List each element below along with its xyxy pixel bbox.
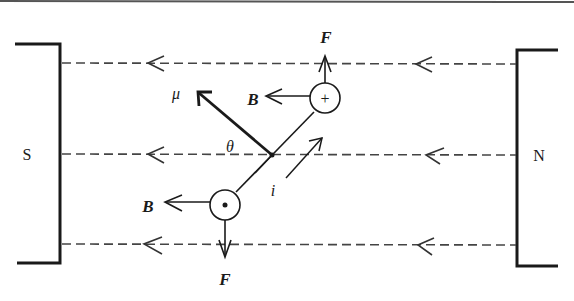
arrow-left-icon xyxy=(418,238,434,255)
force-label-top: F xyxy=(319,28,332,47)
top-border xyxy=(0,1,574,2)
conductor-plus: + xyxy=(310,83,340,113)
coil-side-view xyxy=(236,112,314,192)
north-pole-label: N xyxy=(533,147,545,164)
moment-label: μ xyxy=(171,85,180,103)
field-line-top xyxy=(62,63,516,64)
plus-symbol: + xyxy=(320,90,329,107)
force-arrow-down xyxy=(219,220,231,257)
arrow-left-icon xyxy=(144,237,162,254)
conductor-dot xyxy=(210,190,240,220)
field-arrow-bottom xyxy=(165,195,210,211)
south-pole-label: S xyxy=(23,146,32,163)
angle-label: θ xyxy=(226,138,234,155)
field-arrow-top xyxy=(266,89,310,104)
magnetic-moment-arrow xyxy=(198,92,272,155)
field-label-top: B xyxy=(246,90,258,109)
arrow-left-icon xyxy=(426,148,444,164)
force-arrow-up xyxy=(319,56,331,83)
field-lines xyxy=(62,63,516,245)
torque-on-loop-diagram: + F B F B μ θ i S N xyxy=(0,0,574,301)
force-label-bottom: F xyxy=(218,270,231,289)
current-arrow xyxy=(286,138,322,178)
field-line-bottom xyxy=(62,244,516,245)
current-label: i xyxy=(271,182,275,199)
field-label-bottom: B xyxy=(141,197,153,216)
dot-symbol xyxy=(223,203,228,208)
field-line-middle xyxy=(62,154,516,155)
